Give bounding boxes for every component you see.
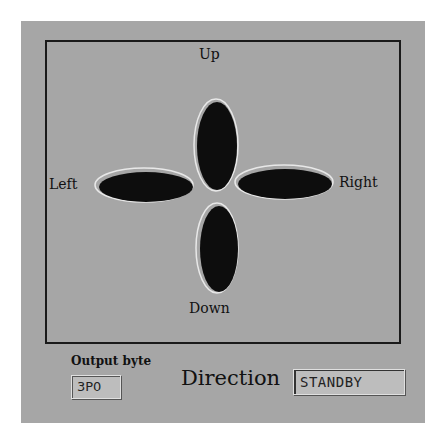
down-button[interactable] <box>196 203 238 293</box>
direction-label: Direction <box>181 366 280 390</box>
up-label: Up <box>199 46 220 62</box>
left-label: Left <box>49 176 77 192</box>
right-label: Right <box>339 174 378 190</box>
up-button[interactable] <box>194 99 238 191</box>
left-button[interactable] <box>95 168 193 202</box>
right-button[interactable] <box>235 165 333 199</box>
output-byte-field[interactable]: 3P0 <box>71 375 121 399</box>
joystick-panel: Up Down Left Right Output byte 3P0 Direc… <box>21 21 425 423</box>
down-label: Down <box>189 300 230 316</box>
direction-field[interactable]: STANDBY <box>293 369 405 395</box>
output-byte-label: Output byte <box>71 354 151 368</box>
